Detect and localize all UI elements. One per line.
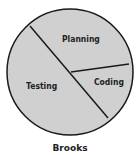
slice-label-coding: Coding: [94, 77, 124, 87]
pie-circle: [7, 9, 133, 135]
slice-label-testing: Testing: [26, 81, 57, 91]
slice-label-planning: Planning: [62, 34, 100, 44]
chart-title: Brooks: [0, 143, 140, 153]
